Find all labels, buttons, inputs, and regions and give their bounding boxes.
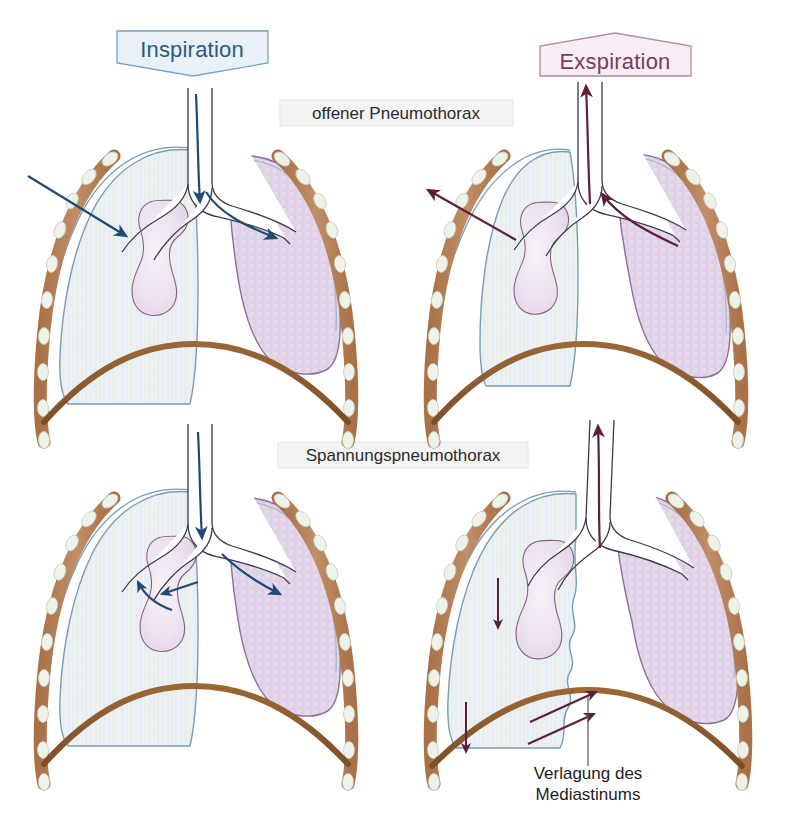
tension-pneumothorax-label: Spannungspneumothorax (278, 442, 528, 468)
mediastinal-shift-callout-line2: Mediastinums (536, 785, 641, 804)
open-pneumothorax-label: offener Pneumothorax (280, 100, 513, 126)
pneumothorax-figure: Inspiration Exspiration offener Pneumoth… (0, 0, 790, 824)
mediastinal-shift-callout-line1: Verlagung des (534, 764, 643, 783)
exspiration-label-text: Exspiration (559, 49, 670, 74)
open-pneumothorax-label-text: offener Pneumothorax (312, 104, 480, 123)
tension-pneumothorax-label-text: Spannungspneumothorax (306, 446, 501, 465)
inspiration-label-text: Inspiration (140, 37, 244, 62)
